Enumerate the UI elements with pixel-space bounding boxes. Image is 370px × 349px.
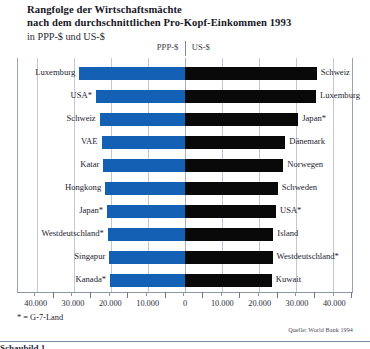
bar-row: VAEDänemark bbox=[18, 131, 352, 154]
row-label-right: Kuwait bbox=[272, 272, 301, 286]
bar-ppp bbox=[109, 251, 185, 264]
row-label-right: Japan* bbox=[298, 111, 326, 125]
row-label-right: Luxemburg bbox=[316, 88, 360, 102]
bar-usd bbox=[185, 159, 283, 172]
axis-tick-label: 30.000 bbox=[62, 299, 85, 308]
legend-label-usd: US-$ bbox=[186, 42, 210, 52]
bar-usd bbox=[185, 228, 273, 241]
chart-figure: Rangfolge der Wirtschaftsmächte nach dem… bbox=[0, 0, 370, 349]
row-label-right: USA* bbox=[276, 203, 302, 217]
bar-row: LuxemburgSchweiz bbox=[18, 62, 352, 85]
row-label-right: Dänemark bbox=[285, 134, 325, 148]
title-line-2: nach dem durchschnittlichen Pro-Kopf-Ein… bbox=[27, 17, 357, 30]
axis-tick-major bbox=[127, 292, 128, 298]
bar-row: Westdeutschland*Island bbox=[18, 223, 352, 246]
bar-ppp bbox=[105, 182, 185, 195]
row-label-left: Kanada* bbox=[76, 272, 111, 286]
bar-usd bbox=[185, 67, 317, 80]
row-label-left: Japan* bbox=[79, 203, 107, 217]
axis-tick-label: 40.000 bbox=[24, 299, 47, 308]
bar-usd bbox=[185, 182, 278, 195]
axis-tick-minor bbox=[221, 292, 222, 296]
axis-tick-minor bbox=[71, 292, 72, 296]
bar-ppp bbox=[100, 113, 185, 126]
axis-tick-minor bbox=[109, 292, 110, 296]
bar-row: KatarNorwegen bbox=[18, 154, 352, 177]
bar-ppp bbox=[107, 205, 185, 218]
bar-ppp bbox=[103, 159, 185, 172]
title-block: Rangfolge der Wirtschaftsmächte nach dem… bbox=[27, 4, 357, 43]
bar-row: HongkongSchweden bbox=[18, 177, 352, 200]
plot-area: LuxemburgSchweizUSA*LuxemburgSchweizJapa… bbox=[17, 58, 353, 292]
axis-tick-label: 10.000 bbox=[136, 299, 159, 308]
axis-tick-label: 20.000 bbox=[248, 299, 271, 308]
bar-ppp bbox=[96, 90, 185, 103]
bar-ppp bbox=[102, 136, 186, 149]
axis-tick-minor bbox=[146, 292, 147, 296]
row-label-left: Westdeutschland* bbox=[41, 226, 107, 240]
legend: PPP-$ US-$ bbox=[17, 42, 353, 56]
axis-ticks bbox=[17, 292, 353, 298]
axis-tick-major bbox=[165, 292, 166, 298]
bar-ppp bbox=[108, 228, 185, 241]
bar-ppp bbox=[79, 67, 185, 80]
row-label-right: Norwegen bbox=[283, 157, 323, 171]
bar-usd bbox=[185, 205, 276, 218]
axis-tick-minor bbox=[258, 292, 259, 296]
axis-tick-label: 40.000 bbox=[323, 299, 346, 308]
row-label-left: Luxemburg bbox=[35, 65, 79, 79]
footnote: * = G-7-Land bbox=[17, 313, 63, 322]
bar-row: SingapurWestdeutschland* bbox=[18, 246, 352, 269]
bar-rows: LuxemburgSchweizUSA*LuxemburgSchweizJapa… bbox=[18, 62, 352, 292]
row-label-right: Westdeutschland* bbox=[273, 249, 339, 263]
bar-row: Kanada*Kuwait bbox=[18, 269, 352, 292]
bar-usd bbox=[185, 90, 316, 103]
bar-row: USA*Luxemburg bbox=[18, 85, 352, 108]
bar-usd bbox=[185, 274, 272, 287]
axis-tick-minor bbox=[183, 292, 184, 296]
row-label-left: Singapur bbox=[74, 249, 109, 263]
source-note: Quelle: World Bank 1994 bbox=[288, 327, 353, 333]
axis-tick-minor bbox=[295, 292, 296, 296]
axis-tick-label: 10.000 bbox=[211, 299, 234, 308]
axis-tick-label: 30.000 bbox=[286, 299, 309, 308]
bottom-rule bbox=[0, 341, 370, 342]
row-label-left: USA* bbox=[70, 88, 96, 102]
bar-usd bbox=[185, 113, 298, 126]
row-label-left: VAE bbox=[81, 134, 102, 148]
row-label-left: Schweiz bbox=[67, 111, 100, 125]
row-label-right: Schweiz bbox=[317, 65, 350, 79]
axis-tick-minor bbox=[34, 292, 35, 296]
row-label-right: Island bbox=[273, 226, 298, 240]
axis-tick-major bbox=[277, 292, 278, 298]
bar-ppp bbox=[110, 274, 185, 287]
bar-usd bbox=[185, 251, 273, 264]
axis-tick-minor bbox=[333, 292, 334, 296]
bar-usd bbox=[185, 136, 285, 149]
axis-tick-major bbox=[53, 292, 54, 298]
bar-row: SchweizJapan* bbox=[18, 108, 352, 131]
legend-label-ppp: PPP-$ bbox=[157, 42, 184, 52]
axis-tick-major bbox=[90, 292, 91, 298]
row-label-left: Hongkong bbox=[65, 180, 105, 194]
axis-tick-label: 0 bbox=[183, 299, 187, 308]
title-line-1: Rangfolge der Wirtschaftsmächte bbox=[27, 4, 357, 17]
row-label-left: Katar bbox=[80, 157, 103, 171]
row-label-right: Schweden bbox=[278, 180, 317, 194]
axis-tick-major bbox=[314, 292, 315, 298]
axis-tick-labels: 40.00030.00020.00010.000010.00020.00030.… bbox=[0, 299, 370, 311]
clipped-caption: Schaubild 1 bbox=[0, 344, 45, 349]
axis-tick-major bbox=[202, 292, 203, 298]
axis-tick-major bbox=[239, 292, 240, 298]
bar-row: Japan*USA* bbox=[18, 200, 352, 223]
axis-tick-major bbox=[351, 292, 352, 298]
axis-tick-label: 20.000 bbox=[99, 299, 122, 308]
